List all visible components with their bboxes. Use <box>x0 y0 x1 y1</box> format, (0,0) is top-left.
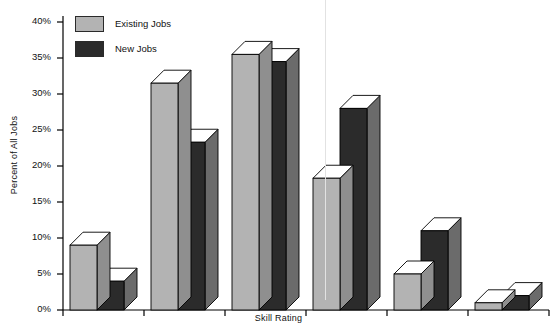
bar-existing-jobs <box>151 70 191 310</box>
bar-front-face <box>394 274 421 310</box>
bar-front-face <box>151 83 178 310</box>
bar-side-face <box>259 41 272 310</box>
bar-existing-jobs <box>232 41 272 310</box>
bar-side-face <box>205 129 218 310</box>
bar-side-face <box>448 218 461 310</box>
bar-side-face <box>286 49 299 310</box>
bar-side-face <box>367 95 380 310</box>
plot-area <box>0 0 557 330</box>
bar-front-face <box>70 245 97 310</box>
bar-side-face <box>340 165 353 310</box>
bar-series-group <box>70 41 542 310</box>
bar-front-face <box>475 303 502 310</box>
bar-existing-jobs <box>313 165 353 310</box>
bar-front-face <box>232 54 259 310</box>
bar-existing-jobs <box>70 232 110 310</box>
bar-existing-jobs <box>394 261 434 310</box>
bar-front-face <box>313 178 340 310</box>
bar-side-face <box>178 70 191 310</box>
chart-container: Percent of All Jobs Skill Rating 0%5%10%… <box>0 0 557 330</box>
